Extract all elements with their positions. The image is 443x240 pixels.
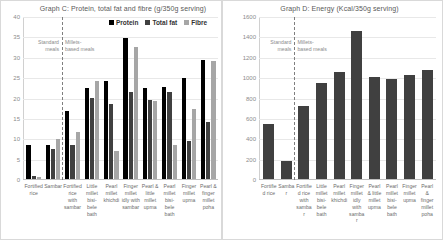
x-axis-category-label: Fortified rice — [260, 183, 278, 224]
bar[interactable] — [211, 61, 215, 179]
bar-group[interactable] — [383, 17, 401, 179]
x-axis-category-label: Finger millet upma — [401, 183, 419, 224]
x-axis-category-label: Finger millet idly with sambar — [121, 183, 140, 217]
bar-group[interactable] — [330, 17, 348, 179]
bar[interactable] — [334, 72, 345, 179]
x-axis-category-label: Little millet bisi-bele bath — [82, 183, 101, 217]
y-axis-tick-label: 25 — [13, 75, 20, 81]
y-axis-tick-label: 1000 — [243, 75, 256, 81]
bar[interactable] — [298, 106, 309, 179]
bar[interactable] — [51, 149, 55, 179]
x-axis-category-label: Sambar — [278, 183, 296, 224]
bar[interactable] — [95, 81, 99, 179]
bar[interactable] — [153, 101, 157, 179]
annotation-millets-based-meals: Millets-based meals — [297, 39, 327, 52]
x-axis-category-label: Pearl millet bisi-bele bath — [383, 183, 401, 224]
bar[interactable] — [201, 60, 205, 179]
y-axis-tick-label: 30 — [13, 55, 20, 61]
x-axis-category-label: Sambar — [43, 183, 62, 217]
bar[interactable] — [37, 177, 41, 179]
x-axis-category-label: Pearl millet bisi-bele bath — [160, 183, 179, 217]
bar-group[interactable] — [160, 17, 179, 179]
section-divider — [62, 17, 63, 180]
bar-group[interactable] — [102, 17, 121, 179]
bar[interactable] — [263, 124, 274, 179]
bar[interactable] — [123, 38, 127, 179]
bar[interactable] — [90, 98, 94, 179]
y-axis-tick-label: 0 — [253, 177, 256, 183]
chart-panel-graph-c: Graph C: Protein, total fat and fibre (g… — [0, 0, 222, 240]
bar[interactable] — [182, 78, 186, 179]
bar[interactable] — [26, 145, 30, 179]
bar[interactable] — [56, 139, 60, 180]
bar[interactable] — [104, 81, 108, 179]
bar[interactable] — [173, 145, 177, 179]
y-axis-tick-label: 200 — [246, 157, 256, 163]
bar-group[interactable] — [121, 17, 140, 179]
x-axis-line-c — [23, 179, 218, 180]
bar[interactable] — [32, 176, 36, 179]
bar-group[interactable] — [366, 17, 384, 179]
x-axis-category-label: Finger millet upma — [179, 183, 198, 217]
bar[interactable] — [143, 88, 147, 179]
bar[interactable] — [206, 122, 210, 179]
bar[interactable] — [46, 145, 50, 179]
annotation-millets-based-meals: Millets-based meals — [65, 39, 95, 52]
y-axis-tick-label: 400 — [246, 136, 256, 142]
y-axis-tick-label: 15 — [13, 116, 20, 122]
x-axis-category-label: Pearl & little millet upma — [366, 183, 384, 224]
bar-group[interactable] — [199, 17, 218, 179]
bar[interactable] — [192, 109, 196, 179]
bar[interactable] — [70, 145, 74, 179]
x-axis-category-label: Finger millet idly with sambar — [348, 183, 366, 224]
y-axis-tick-label: 0 — [17, 177, 20, 183]
bar[interactable] — [404, 75, 415, 179]
bar-group[interactable] — [179, 17, 198, 179]
x-axis-category-label: Pearl millet khichdi — [102, 183, 121, 217]
bar[interactable] — [386, 79, 397, 179]
plot-area-graph-c: 0510152025303540Standard mealsMillets-ba… — [23, 17, 218, 180]
y-axis-tick-label: 10 — [13, 136, 20, 142]
y-axis-tick-label: 1200 — [243, 55, 256, 61]
y-axis-tick-label: 800 — [246, 96, 256, 102]
chart-title-graph-d: Graph D: Energy (Kcal/350g serving) — [223, 5, 442, 12]
x-axis-category-label: Fortified rice with sambar — [295, 183, 313, 224]
bar[interactable] — [148, 100, 152, 179]
x-axis-category-label: Pearl & finger millet poha — [199, 183, 218, 217]
annotation-standard-meals: Standard meals — [261, 39, 291, 52]
chart-panel-graph-d: Graph D: Energy (Kcal/350g serving) 0200… — [222, 0, 443, 240]
charts-figure: Graph C: Protein, total fat and fibre (g… — [0, 0, 443, 240]
x-axis-category-label: Pearl millet khichdi — [330, 183, 348, 224]
bar-group[interactable] — [418, 17, 436, 179]
bar-group[interactable] — [348, 17, 366, 179]
bar[interactable] — [187, 141, 191, 179]
annotation-standard-meals: Standard meals — [29, 39, 59, 52]
bar-group[interactable] — [401, 17, 419, 179]
y-axis-tick-label: 5 — [17, 157, 20, 163]
plot-area-graph-d: 02004006008001000120014001600Standard me… — [259, 17, 436, 180]
x-axis-line-d — [259, 179, 436, 180]
bar-group[interactable] — [140, 17, 159, 179]
bar[interactable] — [167, 92, 171, 179]
x-axis-category-label: Pearl & finger millet poha — [418, 183, 436, 224]
x-axis-labels-graph-c: Fortified riceSambarFortified rice with … — [24, 183, 218, 217]
x-axis-category-label: Fortified rice with sambar — [63, 183, 82, 217]
bar[interactable] — [109, 104, 113, 179]
bar[interactable] — [65, 111, 69, 179]
bar[interactable] — [134, 47, 138, 179]
bar[interactable] — [351, 31, 362, 179]
chart-title-graph-c: Graph C: Protein, total fat and fibre (g… — [1, 5, 221, 12]
bar[interactable] — [369, 77, 380, 179]
y-axis-tick-label: 40 — [13, 14, 20, 20]
bar[interactable] — [85, 88, 89, 179]
x-axis-category-label: Fortified rice — [24, 183, 43, 217]
bar[interactable] — [114, 151, 118, 179]
bar[interactable] — [316, 83, 327, 179]
bar[interactable] — [422, 70, 433, 179]
section-divider — [294, 17, 295, 180]
x-axis-labels-graph-d: Fortified riceSambarFortified rice with … — [260, 183, 436, 224]
bar[interactable] — [281, 161, 292, 179]
bar[interactable] — [162, 87, 166, 179]
bar[interactable] — [129, 92, 133, 179]
bar[interactable] — [76, 132, 80, 179]
